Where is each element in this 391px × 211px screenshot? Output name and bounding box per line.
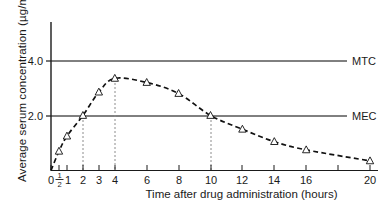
y-axis: [46, 22, 51, 171]
y-tick-label-2: 2.0: [28, 110, 43, 122]
x-tick-label-20: 20: [364, 174, 376, 186]
half-denominator: 2: [57, 180, 61, 189]
serum-concentration-chart: Average serum concentration (µg/mL) Time…: [0, 0, 391, 211]
x-tick-label-12: 12: [236, 174, 248, 186]
threshold-label-mec: MEC: [352, 110, 377, 122]
data-point-marker: [271, 138, 278, 145]
x-tick-label-16: 16: [300, 174, 312, 186]
data-point-marker: [366, 157, 373, 164]
x-tick-label-1: 1: [65, 174, 71, 186]
x-tick-label-3: 3: [96, 174, 102, 186]
data-point-markers: [55, 74, 373, 163]
x-tick-label-10: 10: [205, 174, 217, 186]
x-tick-label-2: 2: [80, 174, 86, 186]
x-axis: [51, 165, 378, 171]
x-tick-label-0: 0: [48, 174, 54, 186]
data-point-marker: [55, 147, 62, 154]
x-tick-label-4: 4: [112, 174, 118, 186]
x-tick-label-half: 1 2: [56, 171, 64, 189]
x-tick-label-8: 8: [176, 174, 182, 186]
threshold-label-mtc: MTC: [352, 55, 376, 67]
data-point-marker: [95, 88, 102, 95]
y-tick-label-4: 4.0: [28, 55, 43, 67]
x-tick-label-6: 6: [144, 174, 150, 186]
x-tick-label-14: 14: [268, 174, 280, 186]
data-point-marker: [175, 90, 182, 97]
half-numerator: 1: [57, 171, 61, 180]
data-point-marker: [303, 146, 310, 153]
plot-area: MTC MEC: [0, 0, 391, 211]
